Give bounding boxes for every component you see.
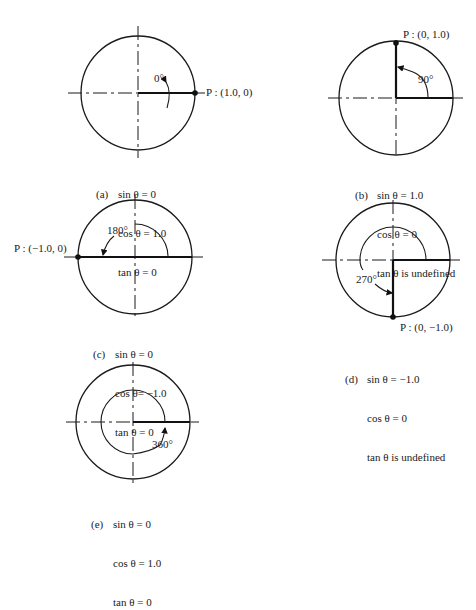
sin-value: sin θ = 0 (118, 188, 156, 200)
angle-label: 90° (418, 73, 433, 85)
panel-tag: (a) (96, 188, 118, 201)
cos-value: cos θ = 1.0 (96, 227, 166, 240)
point-label: P : (−1.0, 0) (14, 242, 67, 255)
sin-value: sin θ = 0 (115, 348, 153, 360)
panel-a-caption: (a)sin θ = 0 cos θ = 1.0 tan θ = 0 (96, 162, 166, 292)
tan-value: tan θ is undefined (355, 267, 455, 280)
tan-value: tan θ is undefined (345, 451, 445, 464)
panel-tag: (c) (93, 348, 115, 361)
sin-value: sin θ = 0 (113, 518, 151, 530)
panel-a-diagram: 0° P : (1.0, 0) (68, 26, 253, 158)
panel-b-caption: (b)sin θ = 1.0 cos θ = 0 tan θ is undefi… (355, 163, 455, 293)
panel-tag: (b) (355, 189, 377, 202)
point-label: P : (0, 1.0) (403, 28, 450, 41)
angle-arc (166, 82, 169, 108)
sin-value: sin θ = −1.0 (367, 373, 420, 385)
sin-value: sin θ = 1.0 (377, 189, 423, 201)
tan-value: tan θ = 0 (96, 266, 166, 279)
point-label: P : (0, −1.0) (400, 321, 453, 334)
cos-value: cos θ = 0 (345, 412, 445, 425)
cos-value: cos θ = 0 (355, 228, 455, 241)
cos-value: cos θ = 1.0 (91, 557, 161, 570)
point-p (192, 90, 198, 96)
cos-value: cos θ= −1.0 (93, 387, 167, 400)
tan-value: tan θ = 0 (91, 596, 161, 609)
panel-tag: (d) (345, 373, 367, 386)
panel-b-diagram: 90° P : (0, 1.0) (328, 28, 463, 158)
panel-e-caption: (e)sin θ = 0 cos θ = 1.0 tan θ = 0 (91, 492, 161, 610)
panel-d-caption: (d)sin θ = −1.0 cos θ = 0 tan θ is undef… (345, 347, 445, 477)
tan-value: tan θ = 0 (93, 426, 167, 439)
point-p (393, 40, 399, 46)
point-p (75, 254, 81, 260)
angle-label: 0° (154, 72, 164, 84)
point-label: P : (1.0, 0) (206, 86, 253, 99)
panel-c-caption: (c)sin θ = 0 cos θ= −1.0 tan θ = 0 (93, 322, 167, 452)
point-p (390, 314, 396, 320)
panel-tag: (e) (91, 518, 113, 531)
